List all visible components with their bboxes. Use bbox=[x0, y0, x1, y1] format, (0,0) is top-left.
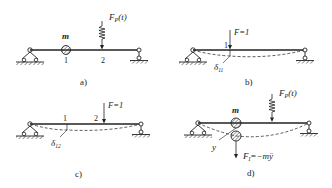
spring-force-icon bbox=[269, 94, 275, 122]
panel-a-caption: a) bbox=[80, 77, 87, 87]
inertia-arrow-icon bbox=[234, 154, 238, 159]
mass-label: m bbox=[232, 105, 239, 115]
delta-12-label: δ12 bbox=[51, 138, 61, 149]
force-label: FP(t) bbox=[278, 88, 297, 99]
displacement-y-label: y bbox=[211, 142, 216, 152]
mass-icon bbox=[62, 46, 71, 55]
displaced-mass-icon bbox=[231, 131, 241, 141]
panel-d: m FP(t) y FI=−mÿ d) bbox=[184, 88, 318, 178]
inertia-force-label: FI=−mÿ bbox=[242, 151, 273, 162]
point-1-label: 1 bbox=[64, 56, 68, 65]
panel-c-caption: c) bbox=[75, 169, 82, 179]
panel-a: m 1 2 FP(t) a) bbox=[16, 12, 148, 87]
panel-d-caption: d) bbox=[247, 168, 255, 178]
mass-label: m bbox=[62, 31, 69, 41]
spring-force-icon bbox=[99, 21, 105, 50]
arrow-down-icon bbox=[228, 45, 232, 50]
structural-dynamics-diagram: m 1 2 FP(t) a) bbox=[0, 0, 332, 188]
panel-c: 1 2 F=1 δ12 c) bbox=[16, 100, 150, 179]
point-2-label: 2 bbox=[94, 114, 98, 123]
arrow-down-icon bbox=[102, 119, 106, 124]
deflection-curve bbox=[198, 123, 309, 137]
panel-b: F=1 1 δ11 b) bbox=[179, 27, 314, 87]
delta-11-label: δ11 bbox=[214, 62, 224, 73]
unit-force-label: F=1 bbox=[107, 100, 123, 110]
point-1-label: 1 bbox=[224, 41, 228, 50]
panel-b-caption: b) bbox=[245, 77, 253, 87]
point-1-label: 1 bbox=[63, 114, 67, 123]
mass-icon bbox=[231, 118, 241, 128]
point-2-label: 2 bbox=[101, 56, 105, 65]
deflection-curve bbox=[193, 50, 305, 57]
unit-force-label: F=1 bbox=[233, 27, 249, 37]
deflection-curve bbox=[30, 124, 141, 130]
force-label: FP(t) bbox=[108, 12, 127, 23]
